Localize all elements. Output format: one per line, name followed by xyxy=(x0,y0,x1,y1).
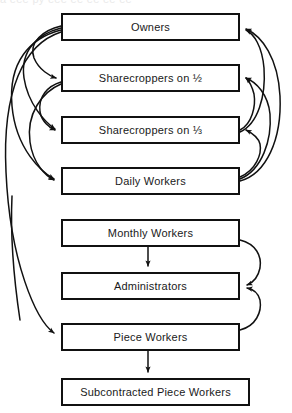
node-sharecroppers-third-label: Sharecroppers on ⅓ xyxy=(99,125,202,136)
arrow-layer xyxy=(0,0,292,413)
node-administrators[interactable]: Administrators xyxy=(61,272,240,300)
node-piece-workers[interactable]: Piece Workers xyxy=(61,323,240,351)
edge-tail-lower-left xyxy=(11,196,20,320)
node-subcontracted-piece-workers[interactable]: Subcontracted Piece Workers xyxy=(61,378,250,406)
node-administrators-label: Administrators xyxy=(114,281,187,292)
edge-sharecroppers-half-to-daily-workers xyxy=(29,84,61,180)
edge-daily-workers-to-sharecroppers-third xyxy=(240,130,260,177)
node-daily-workers[interactable]: Daily Workers xyxy=(61,167,240,195)
edge-owners-to-daily-workers xyxy=(12,30,61,179)
node-sharecroppers-half[interactable]: Sharecroppers on ½ xyxy=(61,64,240,92)
node-daily-workers-label: Daily Workers xyxy=(115,176,186,187)
node-sharecroppers-half-label: Sharecroppers on ½ xyxy=(99,73,202,84)
edge-monthly-workers-to-administrators-curve xyxy=(240,240,260,285)
node-subcontracted-piece-workers-label: Subcontracted Piece Workers xyxy=(80,387,231,398)
edge-piece-workers-to-administrators-curve xyxy=(240,288,260,330)
node-sharecroppers-third[interactable]: Sharecroppers on ⅓ xyxy=(61,116,240,144)
node-piece-workers-label: Piece Workers xyxy=(114,332,188,343)
node-owners[interactable]: Owners xyxy=(61,13,240,41)
labor-hierarchy-diagram: a eee py eee ee ee ee ee xyxy=(0,0,292,413)
node-monthly-workers-label: Monthly Workers xyxy=(108,228,193,239)
node-owners-label: Owners xyxy=(131,22,170,33)
node-monthly-workers[interactable]: Monthly Workers xyxy=(61,219,240,247)
